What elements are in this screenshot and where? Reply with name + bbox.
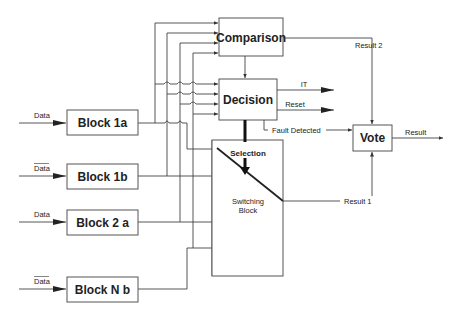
switching-block[interactable]: Selection Switching Block — [212, 140, 283, 276]
bus-wiring — [138, 23, 218, 289]
result-label: Result — [405, 128, 427, 137]
svg-text:Block N b: Block N b — [75, 283, 130, 297]
switching-label-2: Block — [239, 206, 258, 215]
redundancy-block-diagram: Data Data Data Data Block 1a Bloc — [0, 0, 457, 318]
input-label-data-bar: Data — [34, 164, 51, 173]
vote-block[interactable]: Vote — [353, 125, 392, 151]
comparison-block[interactable]: Comparison — [216, 18, 286, 56]
reset-label: Reset — [285, 100, 306, 109]
fault-stub — [264, 120, 268, 130]
input-label-data: Data — [34, 210, 51, 219]
input-label-data-bar: Data — [34, 277, 51, 286]
svg-text:Vote: Vote — [360, 131, 385, 145]
decision-block[interactable]: Decision — [219, 79, 277, 120]
block-nb[interactable]: Block N b — [67, 277, 138, 302]
svg-text:Comparison: Comparison — [216, 31, 286, 45]
input-label-data: Data — [34, 111, 51, 120]
result2-arrow — [283, 38, 372, 124]
block-2a[interactable]: Block 2 a — [67, 210, 138, 235]
result1-label: Result 1 — [344, 197, 372, 206]
svg-text:Block 1b: Block 1b — [77, 170, 127, 184]
svg-text:Block 1a: Block 1a — [78, 116, 128, 130]
selection-label: Selection — [230, 149, 266, 158]
block-1a[interactable]: Block 1a — [67, 110, 138, 135]
result2-label: Result 2 — [355, 41, 383, 50]
block-1b[interactable]: Block 1b — [67, 164, 138, 189]
it-label: IT — [301, 80, 308, 89]
fault-detected-label: Fault Detected — [272, 126, 321, 135]
switching-label-1: Switching — [232, 197, 264, 206]
svg-text:Decision: Decision — [223, 93, 273, 107]
svg-text:Block 2 a: Block 2 a — [76, 216, 129, 230]
